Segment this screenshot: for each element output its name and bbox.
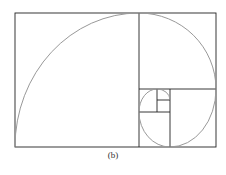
square-grid [15,13,216,147]
outer-rectangle [15,13,216,147]
golden-spiral-diagram [0,0,226,175]
golden-spiral [15,13,216,147]
figure-caption: (b) [0,150,226,160]
